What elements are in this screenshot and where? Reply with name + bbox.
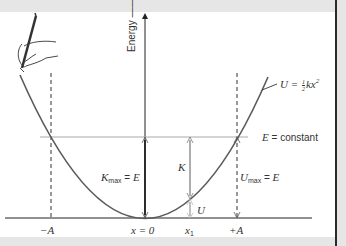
k-label: K [178,162,185,173]
hand-pencil-icon [18,13,58,72]
tick-neg-amplitude: −A [40,225,54,236]
one-half-fraction: 12 [302,79,305,92]
tick-pos-amplitude: +A [229,225,243,236]
potential-curve [20,75,268,219]
u-label: U [197,205,205,216]
kmax-label: Kmax = E [101,172,140,184]
energy-diagram [0,0,346,246]
tick-x1: x1 [185,225,194,237]
tick-origin: x = 0 [131,225,154,236]
energy-axis-label: Energy —— [126,0,137,52]
curve-label: U = 12kx2 [280,78,319,92]
umax-label: Umax = E [240,172,279,184]
energy-constant-label: E = constant [262,132,318,143]
